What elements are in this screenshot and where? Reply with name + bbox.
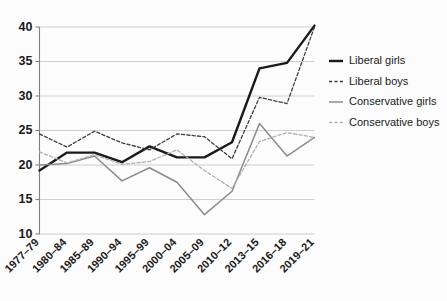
y-tick-label-15: 15 — [19, 192, 33, 206]
legend-label-conservative-boys: Conservative boys — [349, 116, 440, 128]
chart-page: 10152025303540 1977–791980–841985–891990… — [0, 0, 447, 301]
y-tick-label-40: 40 — [19, 20, 33, 34]
y-axis-tick-labels: 10152025303540 — [19, 20, 33, 241]
chart-legend: Liberal girlsLiberal boysConservative gi… — [329, 54, 440, 128]
y-tick-label-20: 20 — [19, 158, 33, 172]
x-axis-tick-labels: 1977–791980–841985–891990–941995–992000–… — [2, 235, 316, 274]
grid-lines — [40, 27, 315, 234]
line-chart: 10152025303540 1977–791980–841985–891990… — [0, 0, 447, 301]
legend-label-liberal-girls: Liberal girls — [349, 54, 406, 66]
data-series — [40, 26, 315, 215]
series-line-liberal-girls — [40, 26, 315, 171]
y-tick-label-30: 30 — [19, 89, 33, 103]
legend-label-liberal-boys: Liberal boys — [349, 75, 409, 87]
legend-label-conservative-girls: Conservative girls — [349, 95, 437, 107]
y-tick-label-35: 35 — [19, 54, 33, 68]
axes — [36, 27, 40, 234]
y-tick-label-25: 25 — [19, 123, 33, 137]
